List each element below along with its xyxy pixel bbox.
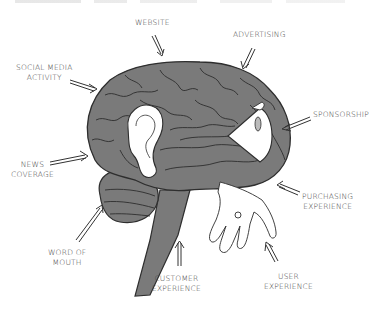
arrow-word-of-mouth [76, 205, 103, 242]
arrow-user-experience [265, 242, 278, 262]
label-customer-experience: CUSTOMER EXPERIENCE [152, 274, 201, 294]
label-advertising: ADVERTISING [233, 30, 286, 40]
label-user-experience: USER EXPERIENCE [264, 272, 313, 292]
arrow-customer-experience [175, 241, 184, 266]
label-purchasing-experience: PURCHASING EXPERIENCE [302, 192, 353, 212]
label-social-media: SOCIAL MEDIA ACTIVITY [16, 63, 73, 83]
label-news-coverage: NEWS COVERAGE [11, 160, 54, 180]
label-sponsorship: SPONSORSHIP [313, 110, 369, 120]
arrow-website [152, 35, 164, 56]
label-website: WEBSITE [135, 18, 170, 28]
arrow-social-media [70, 80, 97, 93]
arrow-news-coverage [50, 151, 88, 165]
arrow-advertising [241, 48, 255, 69]
label-word-of-mouth: WORD OF MOUTH [48, 248, 86, 268]
arrow-purchasing [277, 181, 300, 195]
